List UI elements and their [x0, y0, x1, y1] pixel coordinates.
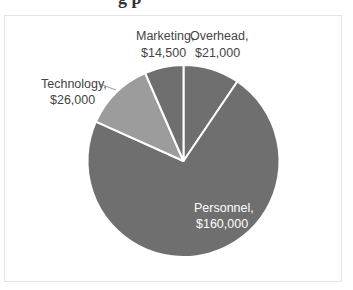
- marketing-label-name: Marketing,: [136, 29, 194, 43]
- overhead-label-value: $21,000: [195, 46, 240, 60]
- technology-label-value: $26,000: [50, 93, 95, 107]
- personnel-label-name: Personnel,: [194, 201, 254, 215]
- pie-chart: Marketing, $14,500 Overhead, $21,000 Tec…: [0, 0, 353, 290]
- personnel-label-value: $160,000: [196, 217, 248, 231]
- overhead-label-name: Overhead,: [190, 29, 248, 43]
- pie-slices: [87, 65, 279, 257]
- marketing-label-value: $14,500: [141, 46, 186, 60]
- technology-label-name: Technology,: [41, 77, 107, 91]
